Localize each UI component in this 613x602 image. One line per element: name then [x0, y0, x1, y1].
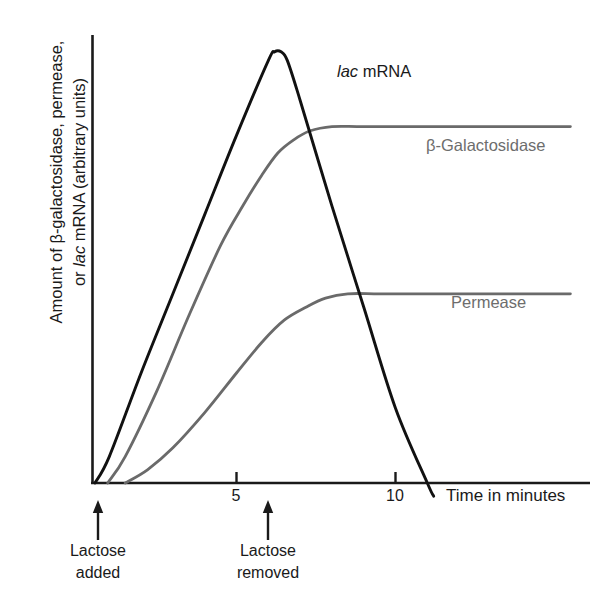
- series-label-permease: Permease: [451, 293, 526, 312]
- up-arrow-icon-lactose-removed: [263, 500, 273, 540]
- curve-permease: [125, 293, 570, 483]
- series-label-lac-plain: mRNA: [358, 62, 411, 80]
- curve-lac-mrna: [95, 51, 434, 497]
- figure-lac-operon-induction: Amount of β-galactosidase, permease, or …: [0, 0, 613, 602]
- x-tick-label-5: 5: [216, 487, 256, 505]
- data-curves: [95, 51, 570, 497]
- event-label-lactose-removed-line2: removed: [208, 562, 328, 584]
- event-label-lactose-removed-line1: Lactose: [208, 540, 328, 562]
- event-label-lactose-added: Lactose added: [48, 540, 148, 583]
- event-label-lactose-added-line2: added: [48, 562, 148, 584]
- x-axis-title: Time in minutes: [446, 486, 565, 506]
- event-label-lactose-removed: Lactose removed: [208, 540, 328, 583]
- series-label-lac-italic: lac: [337, 62, 358, 80]
- event-arrows: [93, 500, 273, 540]
- event-label-lactose-added-line1: Lactose: [48, 540, 148, 562]
- x-tick-label-10: 10: [375, 487, 415, 505]
- series-label-lac-mrna: lac mRNA: [337, 62, 411, 81]
- up-arrow-icon-lactose-added: [93, 500, 103, 540]
- x-axis-ticks: [237, 472, 396, 483]
- series-label-beta-galactosidase: β-Galactosidase: [426, 136, 546, 155]
- axes: [91, 35, 590, 483]
